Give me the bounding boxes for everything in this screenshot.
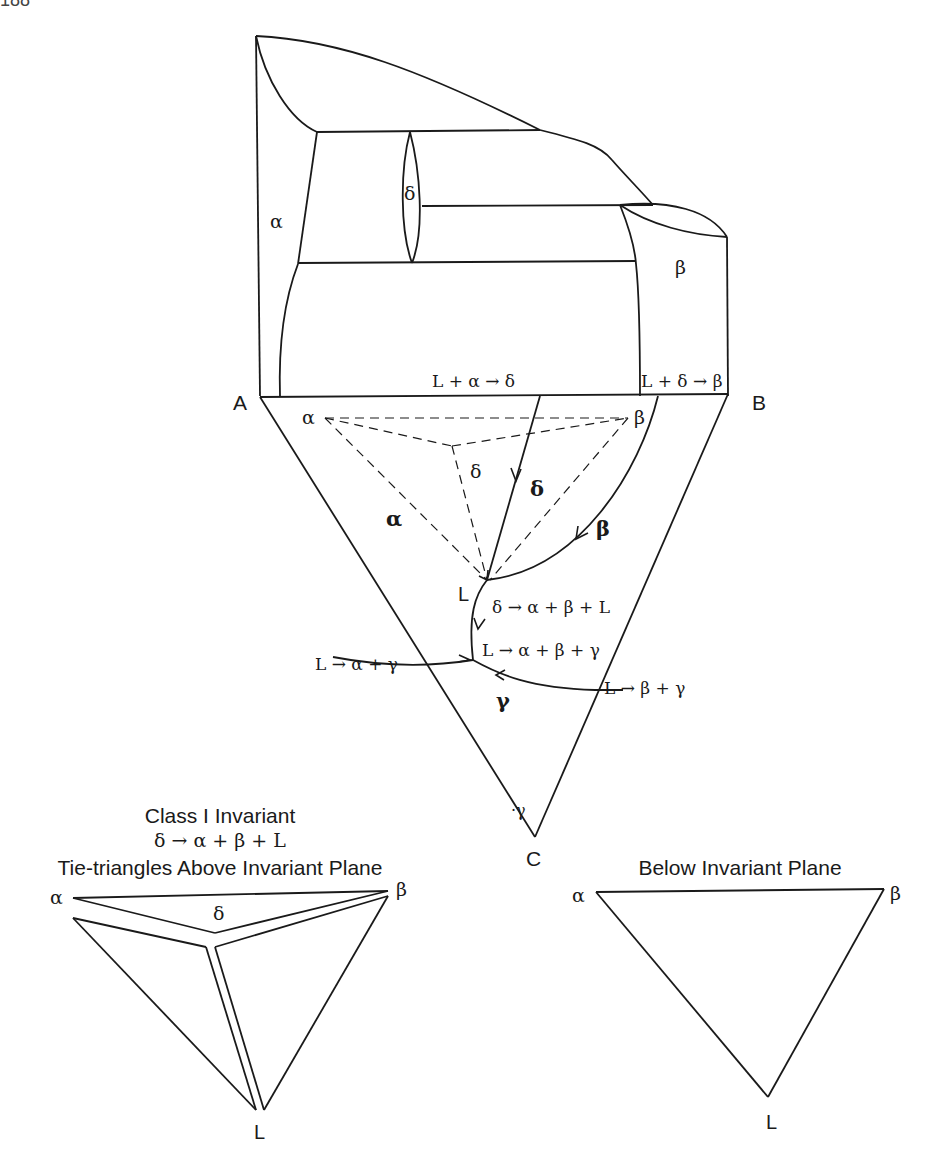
reaction-binary-ac: L → α + γ xyxy=(315,656,398,673)
inset-above-l: L xyxy=(254,1122,265,1142)
reaction-binary-bc: L → β + γ xyxy=(604,680,685,697)
vertex-c-label: C xyxy=(526,848,541,869)
inset-above-title-2: δ → α + β + L xyxy=(40,829,400,852)
inset-above-beta: β xyxy=(396,880,407,899)
point-l-label: L xyxy=(458,584,469,604)
inset-below-alpha: α xyxy=(572,886,585,905)
field-delta-label: δ xyxy=(530,478,544,499)
inset-above-delta: δ xyxy=(213,904,224,923)
field-alpha-label: α xyxy=(386,508,402,529)
prism-delta-label: δ xyxy=(404,184,415,203)
inset-below-beta: β xyxy=(890,884,901,903)
inset-below-l: L xyxy=(766,1112,777,1132)
tie-delta-label: δ xyxy=(470,462,481,481)
reaction-ternary-eutectic: L → α + β + γ xyxy=(482,642,600,659)
prism-alpha-label: α xyxy=(270,212,283,231)
reaction-l-alpha-delta: L + α → δ xyxy=(432,373,515,390)
vertex-a-label: A xyxy=(233,392,247,413)
field-gamma-label: γ xyxy=(496,690,510,711)
inset-above-title-1: Class I Invariant xyxy=(40,803,400,828)
tie-beta-label: β xyxy=(634,408,645,427)
inset-below-title: Below Invariant Plane xyxy=(600,855,880,880)
inset-above-alpha: α xyxy=(50,888,63,907)
reaction-l-delta-beta: L + δ → β xyxy=(641,373,722,390)
inset-above-title-3: Tie-triangles Above Invariant Plane xyxy=(20,855,420,880)
field-beta-label: β xyxy=(596,518,610,539)
prism-beta-label: β xyxy=(675,258,686,277)
vertex-b-label: B xyxy=(752,392,766,413)
corner-gamma-label: ·γ xyxy=(511,803,526,819)
reaction-class1: δ → α + β + L xyxy=(492,599,610,616)
tie-alpha-label: α xyxy=(302,408,315,427)
